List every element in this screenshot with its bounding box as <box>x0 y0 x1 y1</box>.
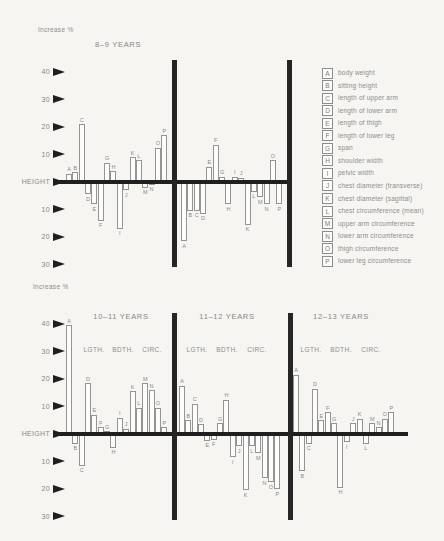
bar-label-H: H <box>111 449 115 455</box>
bar-label-G: G <box>332 416 336 422</box>
axis-tick-label: 20 <box>16 233 50 240</box>
height-axis-label: HEIGHT <box>16 430 50 437</box>
chart-title: 10–11 YEARS <box>93 312 148 321</box>
bar-H <box>337 434 343 488</box>
bar-H <box>110 434 116 448</box>
bar-label-D: D <box>86 376 90 382</box>
axis-tick-label: 30 <box>16 348 50 355</box>
axis-arrow-icon <box>53 320 65 328</box>
legend-key-box-N: N <box>322 231 333 242</box>
bar-D <box>312 389 318 434</box>
bar-label-E: E <box>206 442 210 448</box>
legend-item-label: chest diameter (transverse) <box>338 182 423 189</box>
bar-P <box>161 135 167 182</box>
bar-label-F: F <box>212 441 215 447</box>
column-group-label: CIRC. <box>361 346 381 353</box>
bar-label-C: C <box>80 467 84 473</box>
bar-label-I: I <box>232 459 234 465</box>
bar-label-K: K <box>131 384 135 390</box>
axis-tick-label: 30 <box>16 513 50 520</box>
bar-label-O: O <box>156 140 160 146</box>
bar-label-C: C <box>193 396 197 402</box>
bar-label-J: J <box>125 192 128 198</box>
bar-O <box>155 408 161 434</box>
bar-label-M: M <box>258 199 263 205</box>
bar-label-J: J <box>352 416 355 422</box>
bar-label-C: C <box>80 117 84 123</box>
axis-tick-label: 30 <box>16 261 50 268</box>
legend-key-box-C: C <box>322 93 333 104</box>
legend-key-box-L: L <box>322 206 333 217</box>
bar-B <box>187 182 193 211</box>
bar-H <box>223 400 229 434</box>
bar-label-L: L <box>364 445 367 451</box>
bar-L <box>136 160 142 182</box>
bar-label-E: E <box>320 413 324 419</box>
bar-label-K: K <box>246 226 250 232</box>
bar-label-E: E <box>93 407 97 413</box>
bar-label-H: H <box>226 206 230 212</box>
legend-key-box-D: D <box>322 105 333 116</box>
column-group-label: LGTH. <box>186 346 207 353</box>
bar-H <box>225 182 231 204</box>
bar-label-F: F <box>99 420 102 426</box>
axis-tick-label: 20 <box>16 375 50 382</box>
legend-key-box-H: H <box>322 155 333 166</box>
legend-item-label: shoulder width <box>338 157 383 164</box>
bar-label-I: I <box>119 410 121 416</box>
bar-label-O: O <box>271 153 275 159</box>
bar-label-O: O <box>269 484 273 490</box>
bar-label-E: E <box>208 159 212 165</box>
bar-O <box>268 434 274 482</box>
bar-label-G: G <box>220 169 224 175</box>
axis-arrow-icon <box>53 95 65 103</box>
bar-N <box>264 182 270 204</box>
bar-label-P: P <box>275 491 279 497</box>
bar-A <box>181 182 187 241</box>
bar-label-J: J <box>125 421 128 427</box>
axis-arrow-icon <box>53 205 65 213</box>
bar-D <box>85 383 91 434</box>
bar-K <box>130 391 136 434</box>
axis-tick-label: 10 <box>16 458 50 465</box>
bar-label-P: P <box>162 420 166 426</box>
bar-F <box>213 145 219 182</box>
bar-label-B: B <box>74 165 78 171</box>
chart-title: 8–9 YEARS <box>95 40 141 49</box>
bar-B <box>299 434 305 471</box>
bar-P <box>274 434 280 489</box>
chart-title: 12–13 YEARS <box>313 312 369 321</box>
bar-D <box>200 182 206 214</box>
bar-label-N: N <box>150 186 154 192</box>
bar-label-I: I <box>234 169 236 175</box>
bar-K <box>243 434 249 490</box>
bar-label-B: B <box>189 212 193 218</box>
bar-A <box>179 386 185 434</box>
bar-E <box>91 182 97 204</box>
axis-arrow-icon <box>53 402 65 410</box>
height-axis-label: HEIGHT <box>16 178 50 185</box>
bar-label-F: F <box>326 405 329 411</box>
column-group-label: LGTH. <box>83 346 104 353</box>
axis-arrow-icon <box>53 178 65 186</box>
legend-item-label: length of upper arm <box>338 94 398 101</box>
bar-K <box>130 157 136 182</box>
bar-O <box>155 148 161 182</box>
bar-label-H: H <box>338 489 342 495</box>
bar-label-C: C <box>195 212 199 218</box>
legend-item-label: length of thigh <box>338 119 382 126</box>
bar-N <box>149 390 155 434</box>
legend-key-box-P: P <box>322 256 333 267</box>
bar-label-K: K <box>131 150 135 156</box>
bar-label-A: A <box>67 166 71 172</box>
bar-label-G: G <box>105 155 109 161</box>
bar-I <box>230 434 236 457</box>
bar-C <box>194 182 200 211</box>
bar-label-D: D <box>199 417 203 423</box>
bar-label-A: A <box>180 378 184 384</box>
bar-N <box>262 434 268 478</box>
panel-divider <box>172 313 177 520</box>
axis-tick-label: 10 <box>16 151 50 158</box>
legend-item-label: lower leg circumference <box>338 257 411 264</box>
bar-label-M: M <box>370 416 375 422</box>
